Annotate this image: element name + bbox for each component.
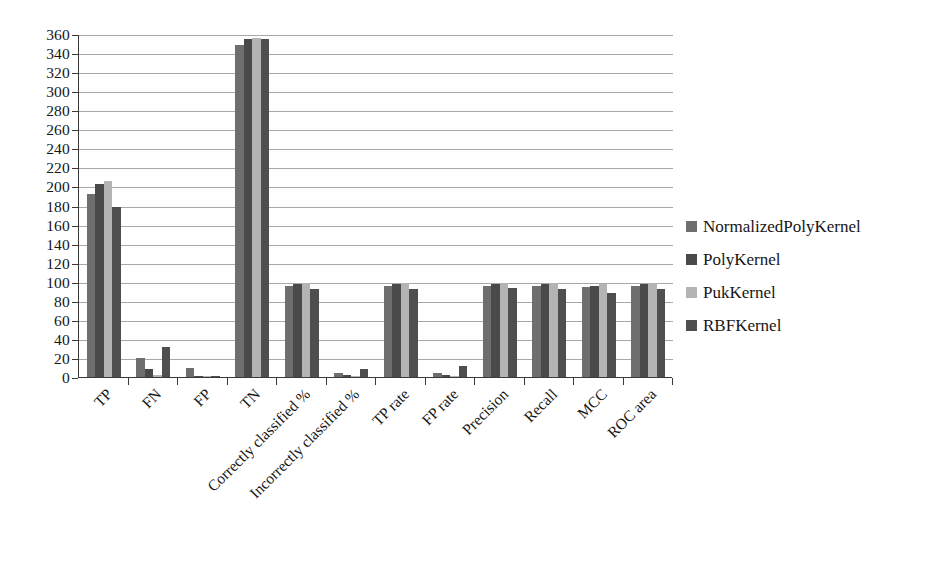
y-axis-tick-label: 360: [24, 27, 70, 43]
x-axis-category-label: FP rate: [419, 386, 461, 428]
legend-item[interactable]: RBFKernel: [686, 309, 936, 342]
y-axis-tick-label: 340: [24, 46, 70, 62]
legend-item[interactable]: PolyKernel: [686, 243, 936, 276]
bar: [360, 369, 369, 377]
bar: [392, 284, 401, 377]
bar: [657, 289, 666, 377]
bar: [541, 284, 550, 377]
legend-swatch-icon: [686, 254, 697, 265]
x-axis-category-label: MCC: [574, 386, 610, 422]
bar: [235, 45, 244, 377]
bar: [343, 375, 352, 377]
bar: [211, 376, 220, 377]
bar: [153, 375, 162, 377]
bar: [433, 373, 442, 377]
bar: [558, 289, 567, 377]
bar-group: [574, 34, 624, 377]
bar: [112, 207, 121, 377]
bar-group: [277, 34, 327, 377]
bar: [442, 375, 451, 377]
bar: [186, 368, 195, 377]
bar-group: [475, 34, 525, 377]
y-axis-tick-label: 300: [24, 84, 70, 100]
bar-group: [525, 34, 575, 377]
bar: [640, 284, 649, 377]
bar-group: [178, 34, 228, 377]
bar: [285, 286, 294, 377]
y-axis-tick-label: 240: [24, 141, 70, 157]
bar: [293, 284, 302, 377]
bar: [194, 376, 203, 377]
bar: [95, 184, 104, 377]
bar: [384, 286, 393, 377]
bar: [401, 283, 410, 377]
bar: [549, 283, 558, 377]
x-axis-category-label: Recall: [521, 386, 560, 425]
y-axis-tick-label: 100: [24, 275, 70, 291]
x-axis-category-label: FN: [139, 386, 165, 412]
bar: [483, 286, 492, 377]
bar: [648, 283, 657, 377]
y-axis-tick-label: 40: [24, 332, 70, 348]
legend-swatch-icon: [686, 287, 697, 298]
bar-group: [129, 34, 179, 377]
bar-group: [426, 34, 476, 377]
bar: [203, 376, 212, 377]
y-axis-tick-label: 180: [24, 199, 70, 215]
y-axis-tick-label: 80: [24, 294, 70, 310]
bar-group: [376, 34, 426, 377]
bar: [607, 293, 616, 377]
bar-group: [228, 34, 278, 377]
bar: [582, 287, 591, 377]
y-axis-tick-label: 140: [24, 237, 70, 253]
bar: [491, 284, 500, 377]
legend-item[interactable]: NormalizedPolyKernel: [686, 210, 936, 243]
plot-area: [78, 35, 672, 378]
bar-chart: 0204060801001201401601802002202402602803…: [0, 0, 938, 574]
bar: [532, 286, 541, 377]
bar: [590, 286, 599, 377]
y-axis-tick-label: 320: [24, 65, 70, 81]
bar: [87, 194, 96, 377]
legend-swatch-icon: [686, 320, 697, 331]
bar: [450, 376, 459, 377]
bar: [500, 283, 509, 377]
x-axis-category-label: ROC area: [605, 386, 660, 441]
bar: [145, 369, 154, 377]
bar-group: [79, 34, 129, 377]
y-axis-tick-label: 120: [24, 256, 70, 272]
y-axis-tick-label: 260: [24, 122, 70, 138]
y-axis-tick-label: 160: [24, 218, 70, 234]
bar: [136, 358, 145, 377]
bar: [351, 376, 360, 377]
bar: [599, 284, 608, 377]
legend-item-label: NormalizedPolyKernel: [703, 218, 861, 235]
legend-item-label: PolyKernel: [703, 251, 780, 268]
x-axis-category-label: Precision: [459, 386, 511, 438]
bar: [162, 347, 171, 377]
bar: [409, 289, 418, 377]
bar-group: [327, 34, 377, 377]
y-axis-tick-label: 200: [24, 179, 70, 195]
bar: [244, 39, 253, 377]
bar: [302, 283, 311, 377]
bar: [310, 289, 319, 377]
legend-swatch-icon: [686, 221, 697, 232]
x-axis-category-labels: TPFNFPTNCorrectly classified %Incorrectl…: [0, 378, 690, 518]
y-axis-tick-label: 220: [24, 160, 70, 176]
bar: [508, 288, 517, 377]
legend-item[interactable]: PukKernel: [686, 276, 936, 309]
y-axis-tick-label: 280: [24, 103, 70, 119]
bar: [252, 38, 261, 377]
y-axis-tick-label: 20: [24, 351, 70, 367]
x-axis-category-label: TP: [91, 386, 115, 410]
x-axis-category-label: TN: [238, 386, 264, 412]
legend-item-label: PukKernel: [703, 284, 776, 301]
bar: [334, 373, 343, 377]
legend-item-label: RBFKernel: [703, 317, 781, 334]
x-axis-category-label: FP: [191, 386, 215, 410]
chart-legend: NormalizedPolyKernelPolyKernelPukKernelR…: [686, 210, 936, 342]
bar: [261, 39, 270, 377]
bar-group: [624, 34, 674, 377]
bar: [459, 366, 468, 377]
